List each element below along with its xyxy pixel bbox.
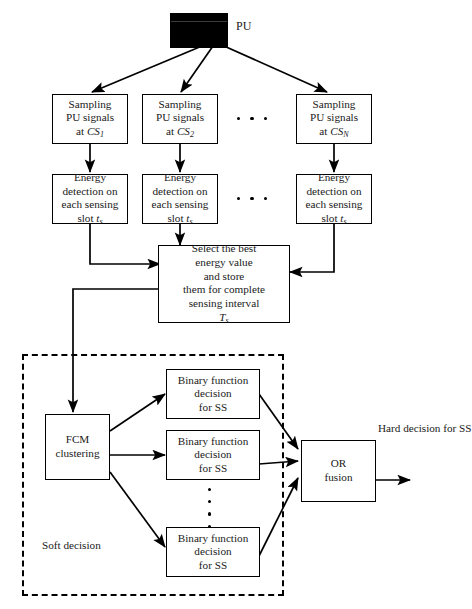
edge-pu-to-sampling-3 — [224, 46, 327, 92]
select-box-line4: them for complete — [183, 283, 265, 297]
fcm-box-line2: clustering — [55, 447, 99, 461]
fusion-box-line2: fusion — [325, 471, 353, 485]
binary-decision-box-2[interactable]: Binary function decision for SS — [166, 430, 260, 480]
binary-box-1-line3: for SS — [199, 401, 227, 415]
energy-box-n-line3: each sensing — [306, 198, 363, 212]
binary-box-n-line3: for SS — [199, 559, 227, 573]
energy-row-ellipsis — [237, 197, 267, 200]
energy-box-1-line3: each sensing — [62, 198, 119, 212]
edge-energy-1-to-select — [90, 224, 160, 264]
pu-source-block — [170, 13, 228, 48]
binary-box-2-line2: decision — [194, 448, 231, 462]
select-box-line6: Ts — [219, 311, 228, 326]
sampling-box-2-line2: PU signals — [156, 111, 204, 125]
select-box-line1: Select the best — [192, 242, 257, 256]
fcm-clustering-box[interactable]: FCM clustering — [45, 414, 110, 480]
fusion-box-line1: OR — [331, 457, 347, 471]
ellipsis-dot — [250, 117, 253, 120]
edge-energy-3-to-select — [290, 224, 334, 272]
binary-box-1-line1: Binary function — [178, 374, 249, 388]
pu-block-seam — [171, 21, 227, 22]
sampling-box-n-line3: at CSN — [319, 125, 348, 140]
or-fusion-box[interactable]: OR fusion — [301, 440, 376, 502]
fcm-box-line1: FCM — [66, 433, 90, 447]
sampling-box-1-line2: PU signals — [66, 111, 114, 125]
energy-box-1-line4: slot ts — [77, 212, 102, 227]
ellipsis-dot — [208, 512, 211, 515]
ellipsis-dot — [264, 117, 267, 120]
energy-box-1-line2: detection on — [63, 185, 118, 199]
binary-box-n-line2: decision — [194, 545, 231, 559]
sampling-box-1-line1: Sampling — [69, 98, 112, 112]
sampling-box-1-line3: at CS1 — [76, 125, 104, 140]
sampling-box-n-line1: Sampling — [313, 98, 356, 112]
binary-decision-box-n[interactable]: Binary function decision for SS — [166, 527, 260, 577]
energy-detection-box-2[interactable]: Energy detection on each sensing slot ts — [142, 174, 218, 224]
binary-box-1-line2: decision — [194, 387, 231, 401]
energy-box-n-line2: detection on — [307, 185, 362, 199]
ellipsis-dot — [208, 488, 211, 491]
select-box-line5: sensing interval — [189, 297, 260, 311]
select-box-line3: and store — [204, 270, 245, 284]
sampling-box-n-line2: PU signals — [310, 111, 358, 125]
soft-decision-region-label: Soft decision — [42, 538, 101, 552]
energy-box-n-line1: Energy — [318, 171, 350, 185]
ellipsis-dot — [250, 197, 253, 200]
select-box-line2: energy value — [195, 256, 252, 270]
binary-box-2-line1: Binary function — [178, 435, 249, 449]
ellipsis-dot — [237, 197, 240, 200]
ellipsis-dot — [237, 117, 240, 120]
binary-box-2-line3: for SS — [199, 462, 227, 476]
sampling-box-2-line1: Sampling — [159, 98, 202, 112]
ellipsis-dot — [208, 500, 211, 503]
binary-decision-box-1[interactable]: Binary function decision for SS — [166, 369, 260, 419]
hard-decision-output-label: Hard decision for SS — [378, 421, 472, 436]
output-label-line1: Hard decision — [378, 422, 440, 434]
ellipsis-dot — [264, 197, 267, 200]
region-label-line1: Soft — [42, 539, 61, 551]
ellipsis-dot — [208, 525, 211, 528]
sampling-box-n[interactable]: Sampling PU signals at CSN — [296, 94, 372, 144]
energy-box-1-line1: Energy — [74, 171, 106, 185]
binary-box-n-line1: Binary function — [178, 532, 249, 546]
energy-detection-box-n[interactable]: Energy detection on each sensing slot ts — [296, 174, 372, 224]
sampling-box-2[interactable]: Sampling PU signals at CS2 — [142, 94, 218, 144]
pu-label: PU — [236, 19, 251, 34]
sampling-box-1[interactable]: Sampling PU signals at CS1 — [52, 94, 128, 144]
energy-box-n-line4: slot ts — [321, 212, 346, 227]
sampling-box-2-line3: at CS2 — [166, 125, 194, 140]
region-label-line2: decision — [63, 539, 100, 551]
output-label-line2: for SS — [443, 422, 471, 434]
sampling-row-ellipsis — [237, 117, 267, 120]
binary-boxes-ellipsis — [208, 488, 211, 528]
energy-box-2-line1: Energy — [164, 171, 196, 185]
select-best-energy-box[interactable]: Select the best energy value and store t… — [158, 245, 290, 323]
energy-box-2-line2: detection on — [153, 185, 208, 199]
energy-box-2-line3: each sensing — [152, 198, 209, 212]
energy-box-2-line4: slot ts — [167, 212, 192, 227]
energy-detection-box-1[interactable]: Energy detection on each sensing slot ts — [52, 174, 128, 224]
